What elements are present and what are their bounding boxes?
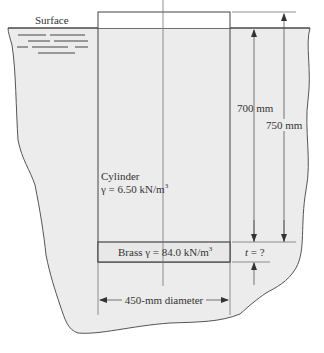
dim-700-label: 700 mm	[237, 102, 274, 114]
brass-label: Brass γ = 84.0 kN/m3	[118, 245, 213, 258]
cylinder-weight-label: γ = 6.50 kN/m3	[100, 182, 169, 195]
dim-diameter-label: 450-mm diameter	[125, 294, 204, 306]
buoyancy-cylinder-diagram: Surface Cylinder γ = 6.50 kN/m3 Brass γ …	[0, 0, 324, 353]
fluid-region	[8, 28, 310, 333]
surface-label: Surface	[35, 14, 69, 26]
cylinder-label: Cylinder	[101, 170, 140, 182]
dim-t-label: t = ?	[245, 246, 265, 258]
dim-750-label: 750 mm	[266, 119, 303, 131]
cylinder-above-surface	[98, 12, 230, 28]
